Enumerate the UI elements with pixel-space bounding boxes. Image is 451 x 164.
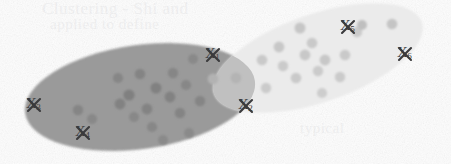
cluster-diagram-canvas xyxy=(0,0,451,164)
point-label-x3: X3 xyxy=(26,96,41,112)
point-label-x6-subscript: 6 xyxy=(407,51,412,61)
point-label-x1-subscript: 1 xyxy=(215,52,220,62)
point-label-x5-subscript: 5 xyxy=(350,24,355,34)
point-label-x5: X5 xyxy=(340,18,355,34)
point-label-x2-subscript: 2 xyxy=(248,103,253,113)
point-label-x3-subscript: 3 xyxy=(36,102,41,112)
point-label-x4-subscript: 4 xyxy=(85,130,90,140)
point-label-x1: X1 xyxy=(205,46,220,62)
point-label-x2: X2 xyxy=(238,97,253,113)
point-label-x6: X6 xyxy=(397,45,412,61)
point-label-x4: X4 xyxy=(75,124,90,140)
cluster-diagram-figure: Clustering - Shi and applied to define t… xyxy=(0,0,451,164)
